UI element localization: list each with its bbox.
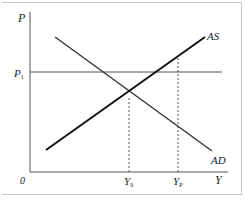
ad-label: AD [210, 154, 226, 166]
x-axis-label: Y [215, 173, 223, 187]
as-curve [46, 37, 205, 150]
as-ad-diagram: P P1 0 AS AD Y0 YP Y [0, 0, 245, 200]
as-label: AS [206, 30, 220, 42]
y-axis-label: P [17, 11, 26, 25]
p1-label: P1 [13, 67, 24, 80]
y0-label: Y0 [124, 175, 133, 188]
yp-label: YP [173, 175, 183, 188]
ad-curve [55, 37, 212, 151]
origin-label: 0 [20, 175, 25, 186]
